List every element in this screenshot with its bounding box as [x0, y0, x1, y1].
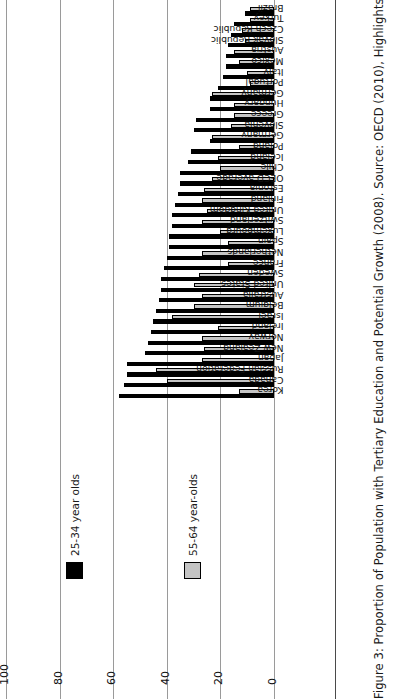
category-label: Ireland [252, 321, 284, 332]
category-label: United States [221, 278, 283, 289]
category-label: Australia [243, 289, 284, 300]
bar-series-container [6, 0, 336, 699]
plot-area: 020406080100 KoreaCanadaRussian Federati… [6, 0, 336, 699]
category-label: Korea [257, 385, 283, 396]
category-label: Turkey [254, 13, 284, 24]
category-label: Austria [251, 45, 283, 56]
category-label: Luxembourg [226, 225, 283, 236]
category-label: Belgium [246, 300, 284, 311]
bar-group [6, 123, 274, 134]
bar-group [6, 102, 274, 113]
bar-group [6, 144, 274, 155]
legend-swatch [184, 562, 201, 579]
category-label: OECD average [216, 172, 283, 183]
category-label: Russian Federation [196, 363, 283, 374]
category-label: Brazil [258, 2, 284, 13]
legend-item: 55-64 year-olds [184, 474, 201, 579]
category-label: Sweden [247, 268, 283, 279]
category-label: Switzerland [230, 215, 284, 226]
legend-swatch [66, 562, 83, 579]
category-label: Slovak Republic [211, 34, 284, 45]
category-label: Japan [258, 353, 284, 364]
bar-group [6, 112, 274, 123]
bar-group [6, 325, 274, 336]
bar-group [6, 6, 274, 17]
bar-group [6, 378, 274, 389]
category-label: Norway [249, 332, 284, 343]
category-label: Poland [253, 140, 284, 151]
bar-group [6, 70, 274, 81]
category-label: Chile [261, 162, 284, 173]
bar-group [6, 155, 274, 166]
bar-group [6, 293, 274, 304]
category-label: Germany [241, 87, 283, 98]
category-label: Netherlands [227, 247, 283, 258]
bar-group [6, 261, 274, 272]
category-label: Israel [258, 310, 283, 321]
category-label: Slovenia [244, 119, 283, 130]
rotated-figure-wrapper: 020406080100 KoreaCanadaRussian Federati… [0, 0, 394, 699]
category-label: Czech Republic [214, 24, 284, 35]
bar-group [6, 59, 274, 70]
legend-label: 25-34 year olds [69, 474, 81, 556]
bar-group [6, 49, 274, 60]
bar-group [6, 187, 274, 198]
category-label: Mexico [251, 55, 283, 66]
category-label: Greece [251, 109, 284, 120]
legend-item: 25-34 year olds [66, 474, 83, 579]
category-label: Italy [264, 66, 284, 77]
figure: 020406080100 KoreaCanadaRussian Federati… [0, 0, 394, 699]
bar-group [6, 314, 274, 325]
category-label: Finland [251, 194, 284, 205]
bar-group [6, 133, 274, 144]
category-label: New Zealand [223, 342, 283, 353]
figure-caption: Figure 3: Proportion of Population with … [364, 0, 394, 699]
legend: 25-34 year olds55-64 year-olds [66, 399, 266, 579]
category-label: Spain [258, 236, 284, 247]
category-label: Canada [249, 374, 284, 385]
bar-group [6, 388, 274, 399]
category-label: United Kingdom [210, 204, 284, 215]
category-label: France [253, 257, 284, 268]
category-label: Hungary [244, 98, 283, 109]
bar-group [6, 91, 274, 102]
category-label: Iceland [250, 151, 283, 162]
category-label: Estonia [250, 183, 284, 194]
bar-group [6, 303, 274, 314]
category-label: Portugal [245, 77, 283, 88]
legend-label: 55-64 year-olds [187, 474, 199, 556]
category-label: Germany [241, 130, 283, 141]
bar [119, 394, 274, 398]
bar-group [6, 80, 274, 91]
